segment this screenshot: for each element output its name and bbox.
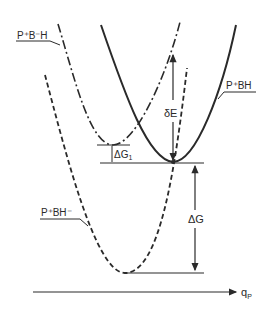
curve-pbh — [101, 25, 236, 162]
curve-pbhm — [45, 68, 187, 273]
crossing-point — [171, 160, 175, 164]
delta-g1-label: ΔG1 — [114, 149, 132, 161]
delta-e-label: δE — [164, 107, 177, 119]
curve-label-pbmh: P⁺B⁻H — [17, 30, 48, 41]
energy-diagram: δE ΔG1 ΔG qP P⁺B⁻H P⁺BH P⁺BH⁻ — [0, 0, 266, 314]
curve-label-pbh: P⁺BH — [226, 80, 252, 91]
leader-pbh — [218, 92, 256, 99]
delta-g-label: ΔG — [188, 213, 204, 225]
qp-axis-label: qP — [241, 286, 252, 300]
curve-label-pbhm: P⁺BH⁻ — [41, 207, 72, 218]
leader-pbhm — [40, 219, 88, 226]
curve-pbmh — [58, 22, 180, 145]
leader-pbmh — [16, 41, 60, 45]
